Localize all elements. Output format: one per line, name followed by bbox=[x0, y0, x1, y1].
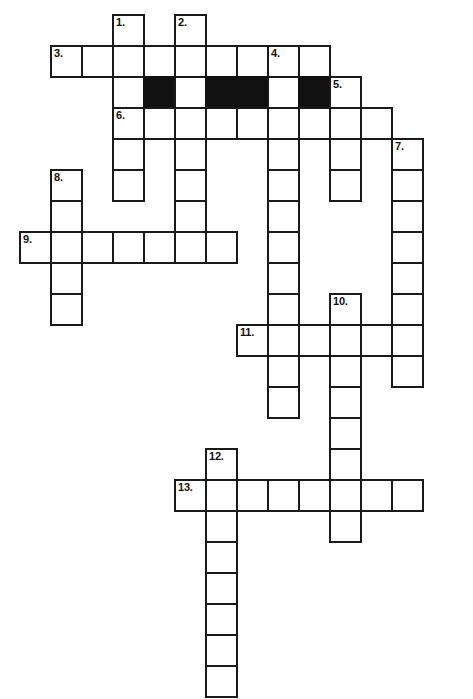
crossword-cell[interactable] bbox=[81, 45, 114, 78]
crossword-cell[interactable] bbox=[391, 479, 424, 512]
crossword-cell[interactable] bbox=[50, 262, 83, 295]
crossword-cell[interactable]: 8. bbox=[50, 169, 83, 202]
crossword-cell[interactable] bbox=[329, 417, 362, 450]
clue-number-3: 3. bbox=[54, 47, 63, 59]
crossword-cell[interactable] bbox=[329, 107, 362, 140]
blocked-cell bbox=[143, 76, 176, 109]
crossword-cell[interactable] bbox=[391, 293, 424, 326]
crossword-cell[interactable] bbox=[267, 262, 300, 295]
crossword-cell[interactable] bbox=[112, 138, 145, 171]
crossword-cell[interactable] bbox=[329, 138, 362, 171]
crossword-cell[interactable]: 4. bbox=[267, 45, 300, 78]
crossword-cell[interactable] bbox=[174, 169, 207, 202]
crossword-cell[interactable] bbox=[112, 169, 145, 202]
crossword-cell[interactable] bbox=[298, 107, 331, 140]
crossword-cell[interactable] bbox=[391, 324, 424, 357]
crossword-cell[interactable] bbox=[298, 479, 331, 512]
crossword-cell[interactable] bbox=[205, 510, 238, 543]
crossword-cell[interactable] bbox=[205, 541, 238, 574]
crossword-cell[interactable] bbox=[267, 324, 300, 357]
crossword-cell[interactable] bbox=[267, 138, 300, 171]
crossword-cell[interactable] bbox=[143, 231, 176, 264]
crossword-cell[interactable] bbox=[391, 200, 424, 233]
crossword-cell[interactable] bbox=[329, 479, 362, 512]
crossword-grid[interactable]: 1.2.3.4.5.6.7.8.9.10.11.12.13. bbox=[0, 0, 473, 699]
crossword-cell[interactable] bbox=[329, 324, 362, 357]
crossword-cell[interactable] bbox=[329, 355, 362, 388]
crossword-cell[interactable] bbox=[112, 45, 145, 78]
crossword-cell[interactable]: 5. bbox=[329, 76, 362, 109]
crossword-cell[interactable] bbox=[360, 107, 393, 140]
crossword-cell[interactable]: 9. bbox=[19, 231, 52, 264]
crossword-cell[interactable] bbox=[267, 200, 300, 233]
crossword-cell[interactable] bbox=[236, 107, 269, 140]
crossword-cell[interactable] bbox=[267, 107, 300, 140]
crossword-cell[interactable] bbox=[267, 293, 300, 326]
crossword-cell[interactable] bbox=[174, 200, 207, 233]
crossword-cell[interactable]: 6. bbox=[112, 107, 145, 140]
blocked-cell bbox=[236, 76, 269, 109]
crossword-cell[interactable] bbox=[267, 231, 300, 264]
clue-number-9: 9. bbox=[23, 233, 32, 245]
crossword-cell[interactable] bbox=[205, 107, 238, 140]
crossword-cell[interactable]: 13. bbox=[174, 479, 207, 512]
blocked-cell bbox=[298, 76, 331, 109]
crossword-cell[interactable]: 2. bbox=[174, 14, 207, 47]
crossword-cell[interactable] bbox=[298, 324, 331, 357]
crossword-cell[interactable] bbox=[174, 107, 207, 140]
crossword-cell[interactable] bbox=[50, 231, 83, 264]
crossword-cell[interactable] bbox=[329, 448, 362, 481]
crossword-cell[interactable] bbox=[174, 76, 207, 109]
crossword-cell[interactable] bbox=[298, 45, 331, 78]
clue-number-1: 1. bbox=[116, 16, 125, 28]
crossword-cell[interactable]: 10. bbox=[329, 293, 362, 326]
clue-number-4: 4. bbox=[271, 47, 280, 59]
crossword-cell[interactable] bbox=[50, 200, 83, 233]
crossword-cell[interactable] bbox=[143, 45, 176, 78]
crossword-cell[interactable]: 3. bbox=[50, 45, 83, 78]
crossword-cell[interactable] bbox=[81, 231, 114, 264]
crossword-cell[interactable] bbox=[205, 603, 238, 636]
clue-number-8: 8. bbox=[54, 171, 63, 183]
crossword-cell[interactable] bbox=[391, 262, 424, 295]
crossword-cell[interactable]: 11. bbox=[236, 324, 269, 357]
crossword-cell[interactable] bbox=[267, 169, 300, 202]
crossword-cell[interactable] bbox=[267, 355, 300, 388]
crossword-cell[interactable] bbox=[50, 293, 83, 326]
crossword-cell[interactable] bbox=[205, 45, 238, 78]
crossword-cell[interactable] bbox=[267, 76, 300, 109]
crossword-cell[interactable] bbox=[112, 76, 145, 109]
crossword-cell[interactable] bbox=[174, 231, 207, 264]
blocked-cell bbox=[205, 76, 238, 109]
crossword-cell[interactable] bbox=[329, 169, 362, 202]
clue-number-12: 12. bbox=[209, 450, 224, 462]
clue-number-2: 2. bbox=[178, 16, 187, 28]
clue-number-13: 13. bbox=[178, 481, 193, 493]
crossword-cell[interactable] bbox=[267, 386, 300, 419]
crossword-cell[interactable] bbox=[174, 45, 207, 78]
crossword-cell[interactable] bbox=[267, 479, 300, 512]
crossword-cell[interactable] bbox=[329, 510, 362, 543]
crossword-cell[interactable] bbox=[236, 479, 269, 512]
crossword-cell[interactable] bbox=[143, 107, 176, 140]
crossword-cell[interactable] bbox=[329, 386, 362, 419]
clue-number-10: 10. bbox=[333, 295, 348, 307]
crossword-cell[interactable] bbox=[205, 665, 238, 698]
crossword-cell[interactable] bbox=[391, 231, 424, 264]
crossword-cell[interactable]: 7. bbox=[391, 138, 424, 171]
crossword-cell[interactable] bbox=[205, 572, 238, 605]
crossword-cell[interactable] bbox=[205, 479, 238, 512]
crossword-cell[interactable] bbox=[174, 138, 207, 171]
crossword-cell[interactable]: 1. bbox=[112, 14, 145, 47]
crossword-cell[interactable]: 12. bbox=[205, 448, 238, 481]
clue-number-7: 7. bbox=[395, 140, 404, 152]
crossword-cell[interactable] bbox=[112, 231, 145, 264]
crossword-cell[interactable] bbox=[205, 231, 238, 264]
crossword-cell[interactable] bbox=[360, 324, 393, 357]
crossword-cell[interactable] bbox=[205, 634, 238, 667]
clue-number-6: 6. bbox=[116, 109, 125, 121]
crossword-cell[interactable] bbox=[236, 45, 269, 78]
crossword-cell[interactable] bbox=[391, 169, 424, 202]
crossword-cell[interactable] bbox=[391, 355, 424, 388]
crossword-cell[interactable] bbox=[360, 479, 393, 512]
